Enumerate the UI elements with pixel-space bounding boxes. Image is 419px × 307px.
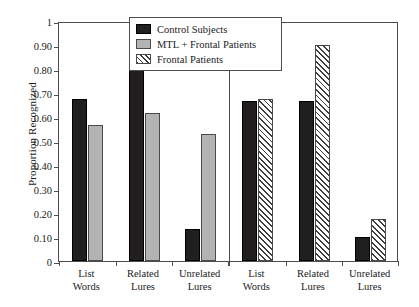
y-axis-tick-label: 0.40 [10,161,52,172]
bar [371,219,386,261]
bar [201,134,216,261]
bar [72,99,87,261]
legend-swatch-mtl [136,39,151,49]
bar [258,99,273,261]
y-axis-tick-label: 0.50 [10,137,52,148]
y-axis-tick-mark [54,95,59,96]
y-axis-tick-mark [54,23,59,24]
x-axis-tick-mark [116,261,117,266]
legend-swatch-frontal [136,54,151,64]
y-axis-tick-label: 0.60 [10,113,52,124]
y-axis-tick-mark [54,191,59,192]
y-axis-tick-labels: 10.900.800.700.600.500.400.300.200.100 [8,22,52,262]
bar [315,45,330,261]
y-axis-tick-label: 0.80 [10,65,52,76]
legend-item: Frontal Patients [136,52,275,66]
bar [88,125,103,261]
legend-label: MTL + Frontal Patients [157,39,256,50]
x-axis-group-label-line: Lures [333,281,407,294]
y-axis-tick-label: 0 [10,257,52,268]
x-axis-tick-mark [398,261,399,266]
y-axis-tick-mark [54,71,59,72]
y-axis-tick-mark [54,47,59,48]
bar [129,68,144,261]
y-axis-tick-mark [54,143,59,144]
legend: Control SubjectsMTL + Frontal PatientsFr… [129,17,282,71]
y-axis-tick-label: 0.30 [10,185,52,196]
bar [355,237,370,261]
figure: Proportion Recognized 10.900.800.700.600… [0,0,419,307]
legend-label: Control Subjects [157,24,227,35]
legend-item: MTL + Frontal Patients [136,37,275,51]
y-axis-tick-label: 0.10 [10,233,52,244]
bar [185,229,200,261]
y-axis-tick-label: 0.90 [10,41,52,52]
x-axis-tick-mark [229,261,230,266]
y-axis-tick-mark [54,215,59,216]
y-axis-tick-label: 0.70 [10,89,52,100]
x-axis-tick-mark [59,261,60,266]
y-axis-tick-label: 0.20 [10,209,52,220]
y-axis-tick-mark [54,119,59,120]
x-axis-group-label-line: Unrelated [333,268,407,281]
x-axis-tick-mark [286,261,287,266]
y-axis-tick-label: 1 [10,17,52,28]
bar [242,101,257,261]
x-axis-tick-mark [342,261,343,266]
bar [299,101,314,261]
legend-swatch-control [136,24,151,34]
bar [145,113,160,261]
x-axis-tick-mark [172,261,173,266]
legend-label: Frontal Patients [157,54,223,65]
x-axis-group-label: UnrelatedLures [333,268,407,293]
y-axis-tick-mark [54,239,59,240]
y-axis-tick-mark [54,167,59,168]
legend-item: Control Subjects [136,22,275,36]
